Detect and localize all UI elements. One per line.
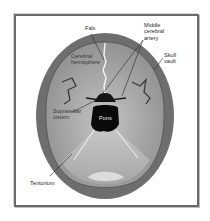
label-skull-vault: Skull vault: [164, 52, 176, 65]
label-tentorium: Tentorium: [30, 180, 55, 186]
label-cerebral-hemisphere: Cerebral hemisphere: [71, 53, 100, 66]
label-suprasellar-cistern: Suprasellar cistern: [53, 108, 81, 121]
label-pons: Pons: [99, 115, 112, 121]
skull-axial-diagram: [0, 0, 210, 221]
label-falx: Falx: [85, 25, 96, 31]
label-middle-cerebral-artery: Middle cerebral artery: [144, 22, 164, 41]
